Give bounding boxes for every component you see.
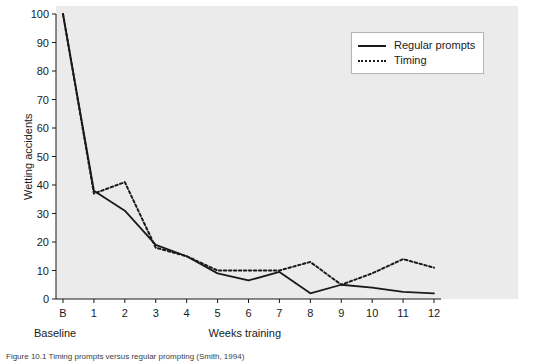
legend-entry-timing: Timing xyxy=(355,53,475,68)
baseline-label: Baseline xyxy=(34,327,76,339)
y-axis-title: Wetting accidents xyxy=(22,113,34,200)
x-tick-label: 7 xyxy=(276,307,282,319)
y-tick-label: 0 xyxy=(43,293,49,305)
x-tick-label: 11 xyxy=(397,307,408,319)
y-tick-label: 70 xyxy=(37,94,49,106)
legend-key-solid-line xyxy=(355,40,389,51)
legend-entry-regular-prompts: Regular prompts xyxy=(355,38,475,53)
x-tick-label: 1 xyxy=(91,307,97,319)
figure-caption: Figure 10.1 Timing prompts versus regula… xyxy=(6,352,244,361)
legend-label-timing: Timing xyxy=(394,55,427,66)
y-tick-label: 40 xyxy=(37,179,49,191)
x-axis-title: Weeks training xyxy=(209,327,282,339)
y-tick-label: 90 xyxy=(37,37,49,49)
x-tick-label: 8 xyxy=(307,307,313,319)
x-tick-label: 3 xyxy=(153,307,159,319)
legend-label-regular-prompts: Regular prompts xyxy=(394,40,475,51)
y-tick-label: 60 xyxy=(37,122,49,134)
x-tick-label: 4 xyxy=(184,307,190,319)
y-tick-label: 80 xyxy=(37,65,49,77)
x-tick-label: 6 xyxy=(245,307,251,319)
x-tick-label: 9 xyxy=(338,307,344,319)
figure-container: 0102030405060708090100B123456789101112 W… xyxy=(0,0,535,361)
y-tick-label: 20 xyxy=(37,236,49,248)
y-tick-label: 30 xyxy=(37,208,49,220)
x-tick-label: 10 xyxy=(366,307,378,319)
x-tick-label: 5 xyxy=(215,307,221,319)
y-tick-label: 50 xyxy=(37,151,49,163)
x-tick-label: 2 xyxy=(122,307,128,319)
x-tick-label: 12 xyxy=(428,307,440,319)
y-tick-label: 10 xyxy=(37,265,49,277)
legend-key-dotted-line xyxy=(355,55,389,66)
y-tick-label: 100 xyxy=(31,8,49,20)
chart-legend: Regular prompts Timing xyxy=(351,32,484,74)
x-tick-label: B xyxy=(59,307,66,319)
